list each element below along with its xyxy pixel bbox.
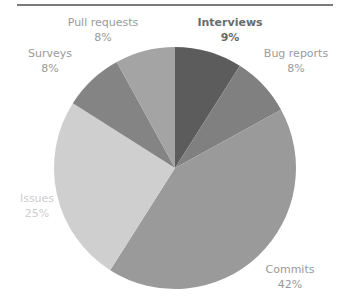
label-surveys-name: Surveys bbox=[28, 46, 72, 61]
label-bug-reports: Bug reports 8% bbox=[264, 46, 328, 76]
label-issues: Issues 25% bbox=[20, 191, 54, 221]
label-pull-requests-pct: 8% bbox=[68, 30, 139, 45]
label-interviews-pct: 9% bbox=[197, 30, 262, 45]
label-interviews: Interviews 9% bbox=[197, 15, 262, 45]
label-commits-name: Commits bbox=[266, 262, 315, 277]
label-bug-reports-pct: 8% bbox=[264, 61, 328, 76]
label-commits: Commits 42% bbox=[266, 262, 315, 292]
label-bug-reports-name: Bug reports bbox=[264, 46, 328, 61]
label-interviews-name: Interviews bbox=[197, 15, 262, 30]
label-surveys-pct: 8% bbox=[28, 61, 72, 76]
label-commits-pct: 42% bbox=[266, 277, 315, 292]
label-surveys: Surveys 8% bbox=[28, 46, 72, 76]
label-issues-pct: 25% bbox=[20, 206, 54, 221]
pie-slices bbox=[54, 47, 296, 289]
label-pull-requests: Pull requests 8% bbox=[68, 15, 139, 45]
label-issues-name: Issues bbox=[20, 191, 54, 206]
label-pull-requests-name: Pull requests bbox=[68, 15, 139, 30]
